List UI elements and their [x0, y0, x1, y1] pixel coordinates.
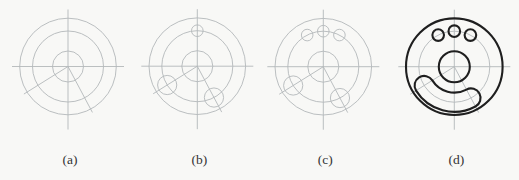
panel-a: (a): [12, 10, 124, 168]
construction-diagram-svg: (a) (b) (c) (d): [0, 0, 519, 180]
panel-a-drawing: [12, 10, 124, 130]
panel-b-drawing: [141, 9, 253, 129]
radial-construction-line: [68, 67, 92, 113]
panel-d-drawing: [398, 10, 510, 130]
dial-construction-figure: (a) (b) (c) (d): [0, 0, 519, 180]
panel-c-label: (c): [318, 152, 333, 167]
panel-c: (c): [267, 10, 379, 167]
panel-b: (b): [141, 9, 253, 167]
panel-b-label: (b): [191, 152, 207, 167]
panel-d-label: (d): [448, 152, 464, 167]
panel-c-drawing: [267, 10, 379, 130]
panel-d: (d): [398, 10, 510, 167]
panel-a-label: (a): [63, 152, 78, 167]
